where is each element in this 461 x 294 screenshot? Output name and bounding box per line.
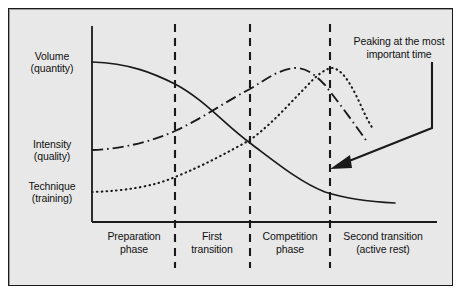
phase-label-first-transition: First transition xyxy=(178,230,246,255)
peaking-annotation: Peaking at the most important time xyxy=(344,35,454,60)
axis-label-intensity: Intensity (quality) xyxy=(14,138,90,162)
phase-label-second-transition: Second transition (active rest) xyxy=(334,230,432,255)
annotation-arrowhead xyxy=(330,155,352,169)
axis-label-technique: Technique (training) xyxy=(14,180,90,204)
phase-label-preparation: Preparation phase xyxy=(96,230,172,255)
annotation-arrow-line xyxy=(344,62,432,163)
axis-label-volume: Volume (quantity) xyxy=(14,50,90,74)
phase-label-competition: Competition phase xyxy=(253,230,327,255)
periodization-diagram: Volume (quantity) Intensity (quality) Te… xyxy=(0,0,461,294)
intensity-curve xyxy=(92,68,368,150)
